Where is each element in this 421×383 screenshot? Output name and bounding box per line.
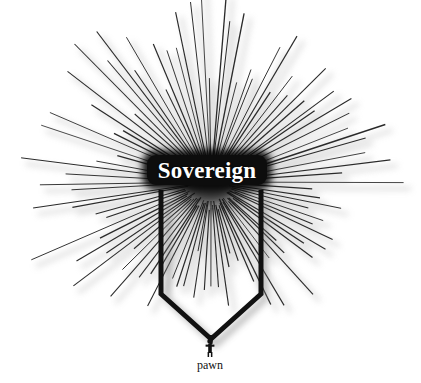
diagram-canvas: Sovereign pawn <box>0 0 421 383</box>
starburst-graphic <box>0 0 421 383</box>
sovereign-node: Sovereign <box>147 155 267 185</box>
sovereign-node-label: Sovereign <box>158 159 256 182</box>
person-silhouette-icon <box>203 338 217 358</box>
pawn-node: pawn <box>190 338 230 371</box>
pawn-node-label: pawn <box>190 359 230 371</box>
